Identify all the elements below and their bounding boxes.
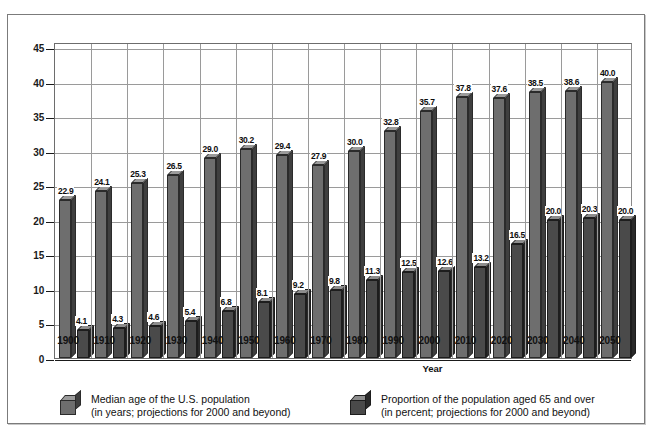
bar-value-label: 12.5 <box>400 258 417 268</box>
bar-median-age-1960 <box>276 155 288 358</box>
bar-median-age-2010 <box>456 97 468 358</box>
y-axis-tick-label: 45 <box>14 43 44 54</box>
bar-face <box>240 149 252 358</box>
bar-median-age-1940 <box>204 158 216 358</box>
bar-value-label: 37.8 <box>454 83 471 93</box>
bar-side <box>396 126 401 358</box>
bar-face <box>95 191 107 358</box>
y-axis-tick-mark <box>46 49 54 50</box>
x-gridline <box>272 44 273 358</box>
bar-proportion-65plus-1950 <box>258 302 270 358</box>
y-axis-tick-label: 15 <box>14 250 44 261</box>
bar-face <box>167 175 179 358</box>
bar-side <box>143 178 148 358</box>
plot-area: 05101520253035404522.94.124.14.325.34.62… <box>54 43 632 359</box>
bar-side <box>613 77 618 358</box>
bar-face <box>276 155 288 358</box>
legend-proportion-line1: Proportion of the population aged 65 and… <box>381 393 595 405</box>
legend-item-proportion: Proportion of the population aged 65 and… <box>350 393 650 418</box>
x-gridline <box>200 44 201 358</box>
bar-value-label: 16.5 <box>509 230 526 240</box>
x-axis-tick-label: 2040 <box>556 335 592 346</box>
bar-value-label: 4.6 <box>147 312 160 322</box>
legend-item-median: Median age of the U.S. population (in ye… <box>60 393 360 418</box>
bar-value-label: 9.8 <box>328 276 341 286</box>
bar-side <box>107 186 112 358</box>
bar-value-label: 20.0 <box>545 206 562 216</box>
bar-side <box>216 153 221 358</box>
bar-value-label: 4.3 <box>111 314 124 324</box>
bar-value-label: 9.2 <box>292 280 305 290</box>
proportion-swatch-icon <box>350 395 372 415</box>
legend-median-line2: (in years; projections for 2000 and beyo… <box>91 406 291 419</box>
x-gridline <box>416 44 417 358</box>
bar-side <box>432 106 437 358</box>
y-gridline <box>55 49 631 50</box>
bar-value-label: 38.6 <box>563 77 580 87</box>
x-axis-tick-label: 1960 <box>267 335 303 346</box>
bar-value-label: 26.5 <box>165 161 182 171</box>
bar-side <box>631 215 636 358</box>
bar-value-label: 29.0 <box>202 144 219 154</box>
x-axis-tick-label: 2050 <box>592 335 628 346</box>
x-gridline <box>308 44 309 358</box>
bar-proportion-65plus-1960 <box>294 294 306 358</box>
bar-value-label: 20.3 <box>581 204 598 214</box>
x-gridline <box>597 44 598 358</box>
bar-value-label: 5.4 <box>183 307 196 317</box>
bar-value-label: 6.8 <box>220 297 233 307</box>
x-gridline <box>561 44 562 358</box>
y-gridline <box>55 84 631 85</box>
legend-item-proportion-text: Proportion of the population aged 65 and… <box>381 393 595 418</box>
bar-proportion-65plus-1970 <box>330 290 342 358</box>
x-axis-tick-label: 1900 <box>50 335 86 346</box>
bar-face <box>420 111 432 358</box>
x-axis-tick-label: 1950 <box>231 335 267 346</box>
bar-side <box>541 87 546 358</box>
bar-side <box>360 146 365 358</box>
y-axis-tick-label: 10 <box>14 285 44 296</box>
bar-median-age-2040 <box>565 91 577 358</box>
bar-side <box>505 93 510 358</box>
bar-median-age-1930 <box>167 175 179 358</box>
bar-face <box>294 294 306 358</box>
bar-value-label: 4.1 <box>75 316 88 326</box>
bar-face <box>204 158 216 358</box>
x-gridline <box>163 44 164 358</box>
x-gridline <box>344 44 345 358</box>
bar-side <box>324 160 329 358</box>
bar-proportion-65plus-1980 <box>366 280 378 358</box>
bar-median-age-2030 <box>529 92 541 358</box>
bar-side <box>179 170 184 358</box>
y-axis-tick-label: 5 <box>14 319 44 330</box>
bar-face <box>348 151 360 358</box>
x-axis-tick-label: 1940 <box>195 335 231 346</box>
bar-value-label: 11.3 <box>364 266 381 276</box>
bar-value-label: 29.4 <box>274 141 291 151</box>
bar-side <box>288 150 293 358</box>
x-axis-tick-label: 1920 <box>122 335 158 346</box>
x-gridline <box>525 44 526 358</box>
y-axis-tick-label: 30 <box>14 147 44 158</box>
x-gridline <box>91 44 92 358</box>
legend-item-median-text: Median age of the U.S. population (in ye… <box>91 393 291 418</box>
bar-value-label: 38.5 <box>527 78 544 88</box>
x-gridline <box>236 44 237 358</box>
bar-face <box>312 165 324 358</box>
bar-median-age-2050 <box>601 82 613 358</box>
bar-face <box>330 290 342 358</box>
bar-value-label: 13.2 <box>472 253 489 263</box>
bar-value-label: 40.0 <box>599 68 616 78</box>
y-axis-tick-mark <box>46 256 54 257</box>
bar-value-label: 37.6 <box>491 84 508 94</box>
y-gridline <box>55 360 631 361</box>
bar-value-label: 30.0 <box>346 137 363 147</box>
bar-value-label: 24.1 <box>93 177 110 187</box>
legend-median-line1: Median age of the U.S. population <box>91 393 250 405</box>
x-axis-tick-label: 1930 <box>158 335 194 346</box>
bar-median-age-1920 <box>131 183 143 358</box>
bar-face <box>565 91 577 358</box>
y-axis-tick-label: 35 <box>14 112 44 123</box>
bar-value-label: 32.8 <box>382 117 399 127</box>
x-gridline <box>380 44 381 358</box>
